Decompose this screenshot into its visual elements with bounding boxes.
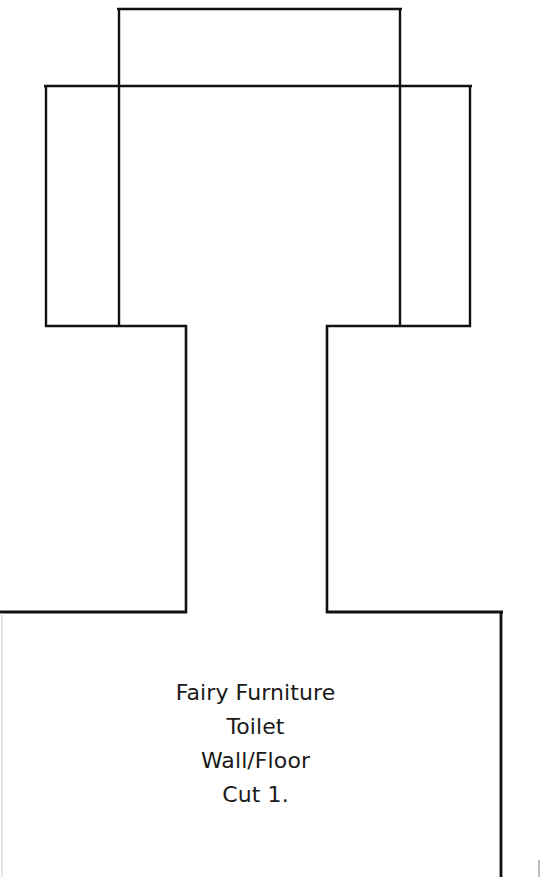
pattern-sheet: Fairy Furniture Toilet Wall/Floor Cut 1. xyxy=(0,0,547,877)
page-background xyxy=(0,0,547,877)
pattern-diagram xyxy=(0,0,547,877)
